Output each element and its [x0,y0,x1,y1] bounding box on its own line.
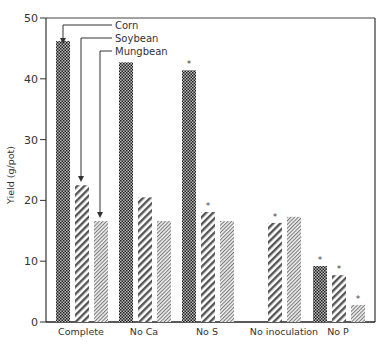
x-category-label: No inoculation [250,326,318,337]
significance-star: * [206,201,211,211]
bar-soybean-4 [332,275,346,322]
bar-corn-4 [313,266,327,322]
x-category-label: Complete [58,326,104,337]
bar-mungbean-3 [287,217,301,322]
y-tick-label: 20 [24,194,38,207]
bar-mungbean-1 [157,221,171,322]
significance-star: * [273,212,278,222]
y-tick-label: 40 [24,73,38,86]
y-tick-label: 0 [31,316,38,329]
x-axis-labels: CompleteNo CaNo SNo inoculationNo P [58,326,349,337]
arrow-icon [97,212,103,218]
bar-corn-0 [56,41,70,322]
bars: ****** [56,41,365,322]
bar-corn-2 [182,70,196,322]
significance-star: * [187,59,192,69]
significance-star: * [318,255,323,265]
svg-text:Mungbean: Mungbean [115,46,168,57]
y-tick-label: 50 [24,12,38,25]
x-category-label: No Ca [130,326,158,337]
bar-mungbean-4 [351,305,365,322]
bar-chart: 01020304050 ****** CompleteNo CaNo SNo i… [0,0,392,348]
x-category-label: No P [327,326,349,337]
bar-mungbean-2 [220,221,234,322]
y-tick-label: 10 [24,255,38,268]
significance-star: * [337,264,342,274]
significance-star: * [356,294,361,304]
svg-text:Soybean: Soybean [115,33,158,44]
x-category-label: No S [196,326,218,337]
bar-mungbean-0 [94,221,108,322]
bar-soybean-0 [75,185,89,322]
y-tick-label: 30 [24,134,38,147]
bar-soybean-2 [201,212,215,322]
bar-soybean-1 [138,197,152,322]
bar-corn-1 [119,62,133,322]
bar-soybean-3 [268,223,282,322]
y-axis-label: Yield (g/pot) [5,146,16,205]
svg-text:Corn: Corn [115,20,138,31]
y-axis-ticks: 01020304050 [24,12,46,329]
arrow-icon [78,176,84,182]
